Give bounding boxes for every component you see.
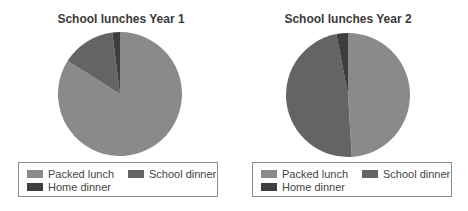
legend-item-packed-lunch: Packed lunch [27, 168, 114, 180]
legend-item-packed-lunch: Packed lunch [261, 168, 348, 180]
packed-lunch-swatch-icon [27, 170, 43, 178]
chart-title: School lunches Year 1 [4, 12, 238, 26]
school-dinner-swatch-icon [128, 170, 144, 178]
legend-label: Home dinner [48, 181, 111, 193]
legend-item-home-dinner: Home dinner [261, 181, 345, 193]
legend-label: School dinner [383, 168, 450, 180]
legend-item-school-dinner: School dinner [128, 168, 216, 180]
pie-slice-packed-lunch [348, 33, 410, 157]
legend: Packed lunch School dinner Home dinner [252, 162, 452, 197]
chart-year-2: School lunches Year 2 Packed lunch Schoo… [234, 0, 468, 211]
chart-year-1: School lunches Year 1 Packed lunch Schoo… [0, 0, 234, 211]
home-dinner-swatch-icon [261, 183, 277, 191]
legend-item-school-dinner: School dinner [362, 168, 450, 180]
legend: Packed lunch School dinner Home dinner [18, 162, 218, 197]
legend-item-home-dinner: Home dinner [27, 181, 111, 193]
packed-lunch-swatch-icon [261, 170, 277, 178]
chart-title: School lunches Year 2 [231, 12, 465, 26]
legend-label: Home dinner [282, 181, 345, 193]
pie-chart-year-2 [285, 32, 411, 158]
legend-label: Packed lunch [282, 168, 348, 180]
pie-chart-year-1 [57, 31, 183, 157]
school-dinner-swatch-icon [362, 170, 378, 178]
legend-label: School dinner [149, 168, 216, 180]
legend-label: Packed lunch [48, 168, 114, 180]
home-dinner-swatch-icon [27, 183, 43, 191]
